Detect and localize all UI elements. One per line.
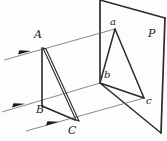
- label-b: b: [104, 69, 110, 80]
- projection-diagram-figure: A B C a b c P: [0, 0, 167, 141]
- projection-ray-B: [2, 83, 100, 112]
- projection-ray-A: [4, 29, 115, 60]
- label-A: A: [33, 28, 42, 41]
- label-a: a: [110, 16, 116, 27]
- diagram-canvas: A B C a b c P: [0, 0, 167, 141]
- triangle-ABC-object: [42, 48, 79, 121]
- label-B: B: [35, 103, 44, 116]
- projection-ray-C-arrowhead: [46, 121, 59, 125]
- label-C: C: [68, 124, 77, 137]
- label-c: c: [146, 95, 152, 106]
- label-P: P: [147, 27, 156, 40]
